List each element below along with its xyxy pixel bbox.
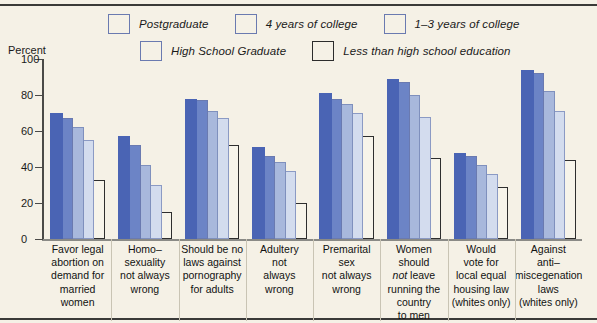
top-rule xyxy=(0,4,597,6)
bar-group-1 xyxy=(44,59,111,239)
legend-label-postgraduate: Postgraduate xyxy=(139,18,209,30)
x-axis-line xyxy=(42,239,582,241)
y-tick-0 xyxy=(35,239,43,240)
y-tick-label-0: 0 xyxy=(21,233,30,245)
y-tick-label-60: 60 xyxy=(21,125,30,137)
label-separator-7 xyxy=(515,239,516,321)
legend-swatch-1-3-years-college xyxy=(384,14,406,34)
legend-label-less-than-high-school: Less than high school education xyxy=(343,45,510,57)
bar-group-7 xyxy=(448,59,515,239)
bar-group-5 xyxy=(313,59,380,239)
x-axis-label-6: Women shouldnot leaverunning thecountryt… xyxy=(380,243,447,322)
legend-item-less-than-high-school: Less than high school education xyxy=(312,41,510,61)
legend-label-4-years-college: 4 years of college xyxy=(266,18,358,30)
bar-g1-s1 xyxy=(50,113,63,239)
y-tick-40 xyxy=(35,167,43,168)
legend-row-2: High School Graduate Less than high scho… xyxy=(140,41,537,61)
bar-g6-s1 xyxy=(387,79,400,239)
legend-swatch-less-than-high-school xyxy=(312,41,334,61)
bar-g5-s1 xyxy=(319,93,332,239)
legend-label-1-3-years-college: 1–3 years of college xyxy=(415,18,520,30)
label-separator-4 xyxy=(313,239,314,321)
bar-g3-s1 xyxy=(185,99,198,239)
y-tick-label-20: 20 xyxy=(21,197,30,209)
bar-g2-s1 xyxy=(118,136,131,239)
bar-g7-s1 xyxy=(454,153,467,239)
legend-row-1: Postgraduate 4 years of college 1–3 year… xyxy=(108,14,546,34)
y-tick-label-40: 40 xyxy=(21,161,30,173)
label-separator-1 xyxy=(111,239,112,321)
chart-page: Postgraduate 4 years of college 1–3 year… xyxy=(0,0,597,323)
x-axis-label-3: Should be nolaws againstpornographyfor a… xyxy=(179,243,246,296)
legend-item-1-3-years-college: 1–3 years of college xyxy=(384,14,520,34)
bar-group-6 xyxy=(380,59,447,239)
y-tick-60 xyxy=(35,131,43,132)
y-tick-20 xyxy=(35,203,43,204)
legend-swatch-postgraduate xyxy=(108,14,130,34)
label-separator-3 xyxy=(246,239,247,321)
bar-group-3 xyxy=(179,59,246,239)
label-separator-5 xyxy=(380,239,381,321)
y-tick-label-80: 80 xyxy=(21,89,30,101)
x-axis-label-8: Againstanti–miscegenationlaws(whites onl… xyxy=(515,243,582,309)
x-axis-label-4: Adulterynotalwayswrong xyxy=(246,243,313,296)
bar-group-2 xyxy=(111,59,178,239)
label-separator-6 xyxy=(448,239,449,321)
x-axis-label-7: Wouldvote forlocal equalhousing law(whit… xyxy=(448,243,515,309)
x-axis-label-1: Favor legalabortion ondemand formarriedw… xyxy=(44,243,111,309)
legend-swatch-4-years-college xyxy=(235,14,257,34)
legend-item-postgraduate: Postgraduate xyxy=(108,14,209,34)
label-separator-2 xyxy=(179,239,180,321)
legend-item-4-years-college: 4 years of college xyxy=(235,14,358,34)
legend-swatch-high-school-graduate xyxy=(140,41,162,61)
bar-g8-s1 xyxy=(521,70,534,239)
y-tick-80 xyxy=(35,95,43,96)
x-axis-label-5: Premaritalsexnot alwayswrong xyxy=(313,243,380,296)
chart-legend: Postgraduate 4 years of college 1–3 year… xyxy=(0,8,597,60)
x-axis-label-2: Homo–sexualitynot alwayswrong xyxy=(111,243,178,296)
legend-item-high-school-graduate: High School Graduate xyxy=(140,41,286,61)
bar-g4-s1 xyxy=(252,147,265,239)
bar-group-8 xyxy=(515,59,582,239)
bar-group-4 xyxy=(246,59,313,239)
legend-label-high-school-graduate: High School Graduate xyxy=(171,45,286,57)
plot-area: 020406080100 xyxy=(44,59,582,239)
y-tick-label-100: 100 xyxy=(21,53,30,65)
